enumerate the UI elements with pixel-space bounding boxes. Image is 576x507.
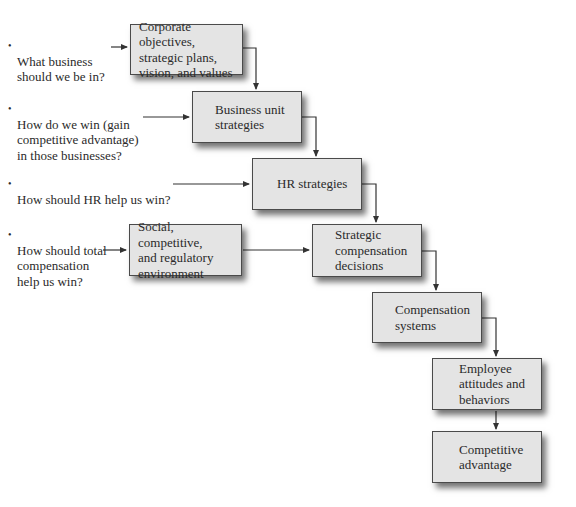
box-label: Social, competitive, and regulatory envi… (138, 219, 241, 281)
question-text: What business should we be in? (17, 54, 105, 85)
box-label: Corporate objectives, strategic plans, v… (139, 19, 242, 81)
question-hr-help: •How should HR help us win? (17, 176, 170, 207)
box-social-competitive-regulatory: Social, competitive, and regulatory envi… (129, 224, 242, 276)
bullet-icon: • (8, 227, 12, 243)
question-what-business: •What business should we be in? (17, 38, 105, 85)
connector-systems-to-employee (482, 318, 496, 356)
question-text: How do we win (gain competitive advantag… (17, 117, 139, 163)
bullet-icon: • (8, 101, 12, 117)
bullet-icon: • (8, 176, 12, 192)
box-hr-strategies: HR strategies (252, 158, 362, 210)
connector-business-unit-to-hr (302, 117, 316, 156)
connector-strategic-to-systems (422, 251, 436, 290)
question-how-do-we-win: •How do we win (gain competitive advanta… (17, 101, 139, 163)
box-label: HR strategies (277, 176, 347, 192)
connector-hr-to-strategic (362, 184, 376, 222)
box-corporate-objectives: Corporate objectives, strategic plans, v… (130, 24, 243, 75)
box-label: Business unit strategies (215, 102, 285, 133)
question-text: How should total compensation help us wi… (17, 243, 107, 289)
connector-corporate-to-business-unit (243, 48, 256, 89)
box-label: Strategic compensation decisions (335, 227, 407, 274)
box-employee-attitudes-behaviors: Employee attitudes and behaviors (432, 358, 542, 410)
box-label: Competitive advantage (459, 442, 523, 473)
bullet-icon: • (8, 38, 12, 54)
question-total-compensation: •How should total compensation help us w… (17, 227, 107, 289)
box-label: Employee attitudes and behaviors (459, 361, 525, 408)
box-compensation-systems: Compensation systems (372, 292, 482, 343)
box-strategic-compensation-decisions: Strategic compensation decisions (312, 224, 422, 277)
box-business-unit-strategies: Business unit strategies (192, 91, 302, 143)
box-competitive-advantage: Competitive advantage (432, 431, 542, 483)
question-text: How should HR help us win? (17, 192, 170, 207)
box-label: Compensation systems (395, 302, 470, 333)
